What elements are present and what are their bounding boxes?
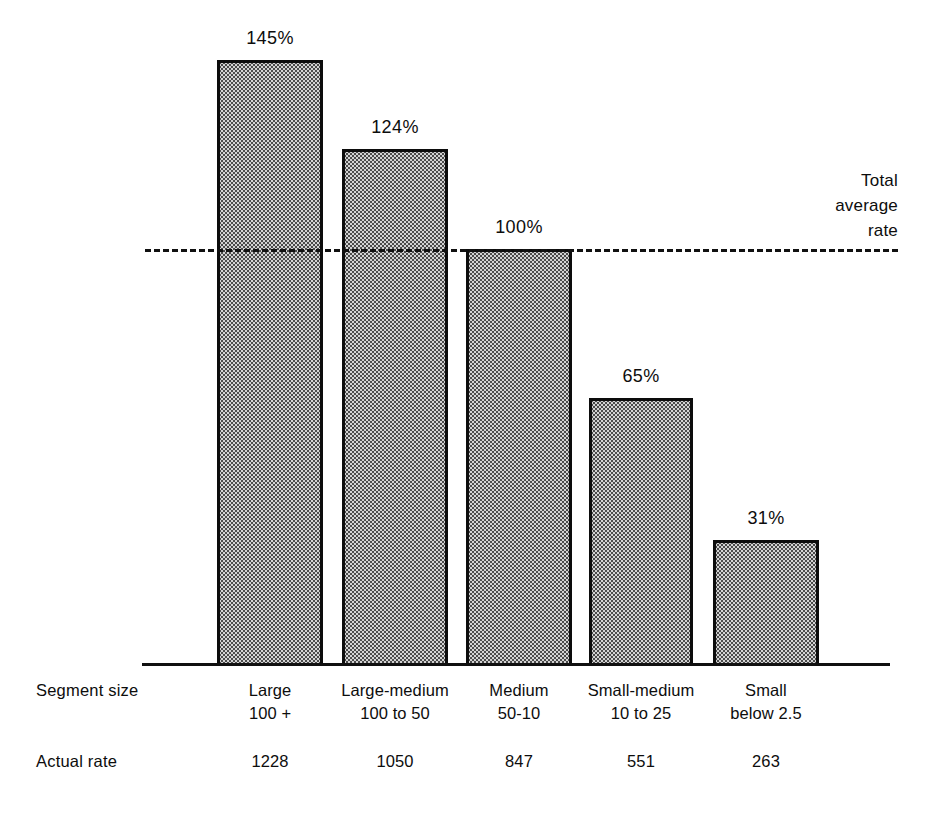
actual-rate-cell-small-medium: 551 (571, 750, 711, 773)
bar-value-small: 31% (713, 508, 819, 528)
bar-large-medium (342, 149, 448, 666)
total-average-rate-line (145, 249, 898, 252)
total-average-rate-label-line3: rate (728, 218, 898, 243)
actual-rate-cell-small: 263 (703, 750, 829, 773)
segment-name-large: Large (207, 679, 333, 702)
bar-small-medium (589, 398, 693, 666)
bar-medium (466, 249, 572, 666)
segment-size-small-medium: 10 to 25 (571, 702, 711, 725)
total-average-rate-label: Total average rate (728, 168, 898, 243)
segment-size-large: 100 + (207, 702, 333, 725)
bar-value-large: 145% (217, 28, 323, 48)
bar-value-large-medium: 124% (342, 117, 448, 137)
actual-rate-cell-medium: 847 (456, 750, 582, 773)
bar-large (217, 60, 323, 666)
segment-size-large-medium: 100 to 50 (325, 702, 465, 725)
x-axis-baseline (142, 663, 890, 666)
row-label-segment-size: Segment size (36, 681, 226, 700)
segment-cell-large-medium: Large-medium 100 to 50 (325, 679, 465, 725)
segment-name-small: Small (703, 679, 829, 702)
total-average-rate-label-line2: average (728, 193, 898, 218)
segment-size-small: below 2.5 (703, 702, 829, 725)
segment-cell-small: Small below 2.5 (703, 679, 829, 725)
plot-area: 145% 124% 100% 65% 31% Total average rat… (0, 0, 934, 680)
segment-cell-medium: Medium 50-10 (456, 679, 582, 725)
segment-cell-small-medium: Small-medium 10 to 25 (571, 679, 711, 725)
segment-name-small-medium: Small-medium (571, 679, 711, 702)
segment-size-medium: 50-10 (456, 702, 582, 725)
total-average-rate-label-line1: Total (728, 168, 898, 193)
bar-value-medium: 100% (466, 217, 572, 237)
row-label-actual-rate: Actual rate (36, 752, 226, 771)
bar-chart: 145% 124% 100% 65% 31% Total average rat… (0, 0, 934, 824)
bar-value-small-medium: 65% (589, 366, 693, 386)
segment-name-medium: Medium (456, 679, 582, 702)
bar-small (713, 540, 819, 666)
actual-rate-cell-large-medium: 1050 (325, 750, 465, 773)
actual-rate-cell-large: 1228 (207, 750, 333, 773)
category-table: Segment size Actual rate Large 100 + Lar… (0, 668, 934, 824)
segment-name-large-medium: Large-medium (325, 679, 465, 702)
segment-cell-large: Large 100 + (207, 679, 333, 725)
